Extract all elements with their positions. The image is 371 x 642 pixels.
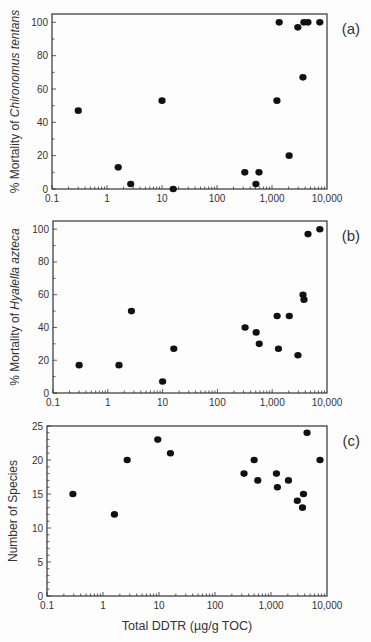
y-axis-label: Number of Species <box>6 460 20 562</box>
plot-frame <box>52 14 327 189</box>
y-axis-label: % Mortality of Chironomus tentans <box>8 10 22 193</box>
data-point <box>276 19 283 26</box>
x-tick-label: 0.1 <box>40 600 54 611</box>
data-point <box>69 491 76 498</box>
x-tick-label: 0.1 <box>46 397 60 408</box>
data-point <box>286 313 293 320</box>
data-point <box>316 19 323 26</box>
y-tick-label: 0 <box>43 388 49 399</box>
y-tick-label: 15 <box>32 489 44 500</box>
x-tick-label: 1,000 <box>259 193 284 204</box>
x-tick-label: 10,000 <box>312 397 343 408</box>
data-point <box>303 430 310 437</box>
y-tick-label: 100 <box>32 224 49 235</box>
figure: 0.11101001,00010,000020406080100% Mortal… <box>0 0 371 642</box>
data-point <box>304 231 311 238</box>
data-point <box>273 97 280 104</box>
y-tick-label: 40 <box>37 117 49 128</box>
y-tick-label: 0 <box>42 184 48 195</box>
data-point <box>285 477 292 484</box>
data-point <box>75 107 82 114</box>
data-point <box>299 74 306 81</box>
y-tick-label: 60 <box>38 289 50 300</box>
x-tick-label: 10 <box>153 600 165 611</box>
chart-panel-a: 0.11101001,00010,000020406080100% Mortal… <box>8 10 360 204</box>
x-axis-label: Total DDTR (µg/g TOC) <box>122 619 252 633</box>
x-tick-label: 0.1 <box>45 193 59 204</box>
y-tick-label: 100 <box>31 17 48 28</box>
data-point <box>251 457 258 464</box>
data-point <box>167 450 174 457</box>
x-tick-label: 1,000 <box>260 397 285 408</box>
data-point <box>300 491 307 498</box>
data-point <box>294 24 301 31</box>
data-point <box>294 498 301 505</box>
y-tick-label: 25 <box>32 421 44 432</box>
data-point <box>316 226 323 233</box>
data-point <box>273 470 280 477</box>
plot-frame <box>47 426 327 596</box>
data-point <box>115 164 122 171</box>
data-point <box>286 152 293 159</box>
data-point <box>240 470 247 477</box>
x-tick-label: 1 <box>105 397 111 408</box>
x-tick-label: 10 <box>156 193 168 204</box>
x-tick-label: 100 <box>207 600 224 611</box>
y-tick-label: 0 <box>37 591 43 602</box>
data-point <box>76 362 83 369</box>
data-point <box>115 362 122 369</box>
x-tick-label: 1 <box>100 600 106 611</box>
data-point <box>154 436 161 443</box>
x-tick-label: 10 <box>157 397 169 408</box>
data-point <box>304 19 311 26</box>
y-tick-label: 20 <box>32 455 44 466</box>
panel-label: (a) <box>342 20 360 37</box>
x-tick-label: 100 <box>209 193 226 204</box>
data-point <box>254 477 261 484</box>
data-point <box>275 345 282 352</box>
y-tick-label: 80 <box>38 256 50 267</box>
x-tick-label: 1,000 <box>258 600 283 611</box>
data-point <box>241 169 248 176</box>
x-tick-label: 10,000 <box>312 193 343 204</box>
x-tick-label: 100 <box>209 397 226 408</box>
y-tick-label: 20 <box>38 355 50 366</box>
plot-frame <box>53 221 327 393</box>
data-point <box>124 457 131 464</box>
data-point <box>255 169 262 176</box>
data-point <box>127 181 134 188</box>
x-tick-label: 1 <box>104 193 110 204</box>
data-point <box>252 181 259 188</box>
y-tick-label: 5 <box>37 557 43 568</box>
data-point <box>111 511 118 518</box>
y-axis-label: % Mortality of Hyalella azteca <box>8 228 22 386</box>
data-point <box>300 296 307 303</box>
x-tick-label: 10,000 <box>312 600 343 611</box>
data-point <box>241 324 248 331</box>
data-point <box>128 308 135 315</box>
chart-panel-c: 0.11101001,00010,0000510152025Number of … <box>6 421 360 612</box>
y-tick-label: 60 <box>37 84 49 95</box>
data-point <box>274 484 281 491</box>
data-point <box>170 345 177 352</box>
panel-label: (b) <box>342 227 360 244</box>
data-point <box>253 329 260 336</box>
data-point <box>299 504 306 511</box>
y-tick-label: 80 <box>37 50 49 61</box>
data-point <box>170 186 177 193</box>
panel-label: (c) <box>343 432 361 449</box>
data-point <box>274 313 281 320</box>
data-point <box>256 341 263 348</box>
data-point <box>294 352 301 359</box>
y-tick-label: 20 <box>37 150 49 161</box>
y-tick-label: 40 <box>38 322 50 333</box>
data-point <box>159 378 166 385</box>
chart-panel-b: 0.11101001,00010,000020406080100% Mortal… <box>8 221 360 408</box>
data-point <box>158 97 165 104</box>
data-point <box>316 457 323 464</box>
y-tick-label: 10 <box>32 523 44 534</box>
